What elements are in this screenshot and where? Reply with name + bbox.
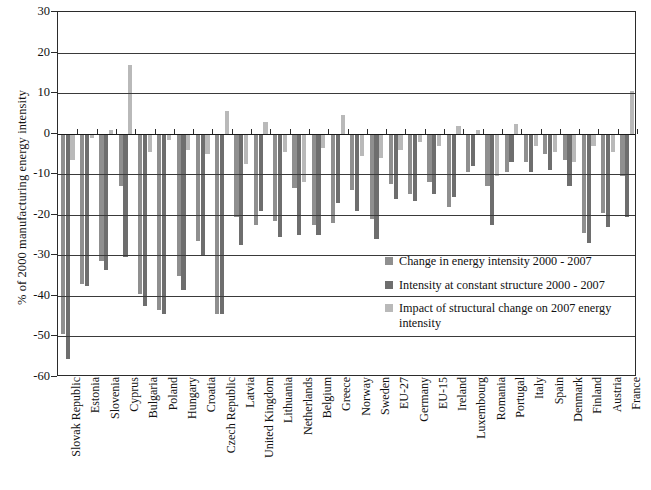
legend-label: Intensity at constant structure 2000 - 2… (399, 278, 605, 293)
x-axis-label: Luxembourg (476, 377, 487, 439)
bar (205, 134, 209, 154)
bar (591, 134, 595, 146)
gridline (58, 174, 635, 175)
x-axis-label: Lithuania (283, 377, 294, 423)
bar (119, 134, 123, 187)
y-tick-label: -50 (4, 329, 50, 341)
bar (625, 134, 629, 217)
bar (239, 134, 243, 246)
bar (548, 134, 552, 171)
y-tick-label: 30 (4, 5, 50, 17)
x-axis-label: Estonia (90, 377, 101, 413)
bar (495, 134, 499, 177)
bar (99, 134, 103, 262)
bar (587, 134, 591, 244)
bar (572, 134, 576, 162)
bar (620, 134, 624, 177)
y-tick-label: -60 (4, 370, 50, 382)
bar (447, 134, 451, 207)
bar (418, 134, 422, 142)
x-axis-label: Sweden (380, 377, 391, 415)
bar (563, 134, 567, 160)
bar (259, 134, 263, 211)
x-axis-label: EU-27 (399, 377, 410, 409)
gridline (58, 93, 635, 94)
x-axis-label: Portugal (515, 377, 526, 418)
bar (456, 126, 460, 134)
bar (543, 134, 547, 154)
x-axis-label: Netherlands (303, 377, 314, 435)
bar (553, 134, 557, 152)
x-axis-label: Belgium (322, 377, 333, 418)
gridline (58, 53, 635, 54)
y-tick-label: -10 (4, 167, 50, 179)
legend-label: Impact of structural change on 2007 ener… (399, 301, 635, 330)
bar (514, 124, 518, 134)
bar (582, 134, 586, 233)
bar (220, 134, 224, 314)
bar (374, 134, 378, 239)
x-axis-label: Norway (361, 377, 372, 416)
x-axis-label: Poland (168, 377, 179, 410)
bar (215, 134, 219, 314)
x-axis-label: Finland (592, 377, 603, 414)
x-axis-label: Germany (419, 377, 430, 422)
x-axis-label: Hungary (187, 377, 198, 419)
x-axis-label: Latvia (245, 377, 256, 408)
bar (316, 134, 320, 235)
bar (181, 134, 185, 290)
x-axis-labels: Slovak RepublicEstoniaSloveniaCyprusBulg… (57, 377, 636, 490)
bar (490, 134, 494, 225)
bar (630, 91, 634, 134)
y-tick-mark (51, 133, 57, 134)
y-tick-label: -30 (4, 248, 50, 260)
y-tick-label: 0 (4, 127, 50, 139)
bar (452, 134, 456, 197)
y-tick-mark (51, 335, 57, 336)
bar (66, 134, 70, 359)
gridline (58, 215, 635, 216)
x-axis-label: Greece (341, 377, 352, 411)
bar (611, 134, 615, 152)
y-tick-mark (51, 295, 57, 296)
bar (567, 134, 571, 187)
x-axis-label: EU-15 (438, 377, 449, 409)
bar (336, 134, 340, 203)
chart-legend: Change in energy intensity 2000 - 2007In… (385, 254, 635, 339)
bar (379, 134, 383, 158)
bar (196, 134, 200, 241)
y-tick-label: -40 (4, 289, 50, 301)
bar (186, 134, 190, 150)
bar (177, 134, 181, 276)
bar (505, 134, 509, 173)
bar (355, 134, 359, 211)
x-axis-label: Slovak Republic (71, 377, 82, 457)
y-tick-label: 20 (4, 46, 50, 58)
bar (85, 134, 89, 286)
x-axis-label: Italy (534, 377, 545, 399)
bar (398, 134, 402, 150)
bar (254, 134, 258, 225)
bar (534, 134, 538, 146)
x-axis-label: France (631, 377, 642, 410)
bar (370, 134, 374, 219)
bar (312, 134, 316, 225)
bar (529, 134, 533, 173)
bar (225, 111, 229, 133)
y-tick-mark (51, 214, 57, 215)
x-axis-label: Romania (496, 377, 507, 420)
legend-item: Impact of structural change on 2007 ener… (385, 301, 635, 330)
legend-item: Change in energy intensity 2000 - 2007 (385, 254, 635, 269)
bar (292, 134, 296, 189)
bar (201, 134, 205, 256)
legend-item: Intensity at constant structure 2000 - 2… (385, 278, 635, 293)
bar (61, 134, 65, 335)
y-tick-mark (51, 11, 57, 12)
bar (509, 134, 513, 162)
legend-label: Change in energy intensity 2000 - 2007 (399, 254, 592, 269)
bar (471, 134, 475, 166)
legend-swatch-icon (385, 304, 393, 312)
bar (157, 134, 161, 310)
bar (437, 134, 441, 146)
bar (413, 134, 417, 201)
